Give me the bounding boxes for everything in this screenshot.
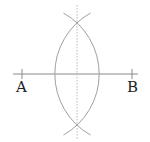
point-label-b: B — [127, 78, 138, 96]
point-label-a: A — [15, 78, 27, 96]
construction-diagram: A B — [0, 0, 150, 142]
